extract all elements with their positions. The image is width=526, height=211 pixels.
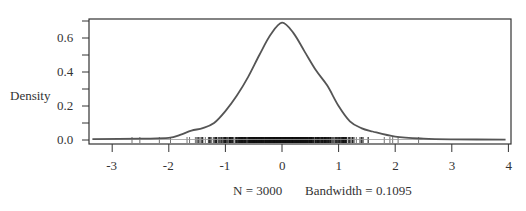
x-tick-label: -1: [219, 158, 230, 173]
x-tick-label: 0: [279, 158, 286, 173]
footer-n: N = 3000: [233, 183, 282, 198]
y-axis-label: Density: [10, 88, 51, 103]
plot-frame: [89, 19, 511, 144]
x-tick-label: 2: [392, 158, 399, 173]
x-axis: -3-2-101234: [106, 144, 512, 173]
y-tick-label: 0.0: [57, 132, 73, 147]
y-tick-label: 0.4: [57, 64, 74, 79]
y-tick-label: 0.2: [57, 98, 73, 113]
x-tick-label: 3: [449, 158, 456, 173]
y-axis: 0.00.20.40.6: [57, 21, 89, 147]
footer-bandwidth: Bandwidth = 0.1095: [305, 183, 412, 198]
y-tick-label: 0.6: [57, 30, 74, 45]
x-tick-label: 4: [505, 158, 512, 173]
x-tick-label: -3: [106, 158, 117, 173]
x-tick-label: 1: [336, 158, 343, 173]
x-tick-label: -2: [163, 158, 174, 173]
density-curve: [92, 23, 505, 140]
density-plot: 0.00.20.40.6 -3-2-101234 Density N = 300…: [0, 0, 526, 211]
